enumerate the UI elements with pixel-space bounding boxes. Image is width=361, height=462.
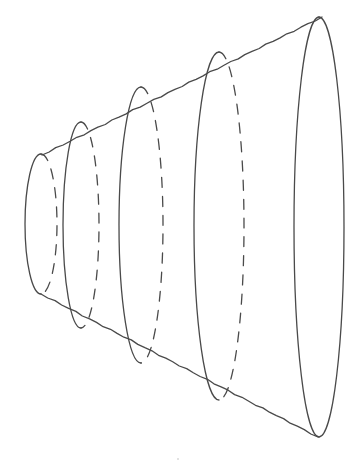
bottom-profile-line <box>41 294 318 437</box>
cross-section-2-front-arc <box>63 122 81 328</box>
cross-section-1-front-arc <box>25 154 41 294</box>
cross-section-5-front-arc <box>294 17 319 437</box>
cross-section-3-front-arc <box>119 87 141 363</box>
cross-section-2-back-arc <box>81 122 99 328</box>
frustum-cross-sections <box>25 17 344 437</box>
cross-section-5-back-arc <box>319 17 344 437</box>
speck-mark <box>177 458 179 460</box>
cross-section-1-back-arc <box>41 154 57 294</box>
top-profile-line <box>42 17 322 155</box>
cross-section-3-back-arc <box>141 87 163 363</box>
frustum-profile-lines <box>41 17 322 437</box>
cross-section-4-front-arc <box>194 52 219 400</box>
cross-section-4-back-arc <box>219 52 244 400</box>
frustum-drawing <box>0 0 361 462</box>
frustum-svg <box>0 0 361 462</box>
